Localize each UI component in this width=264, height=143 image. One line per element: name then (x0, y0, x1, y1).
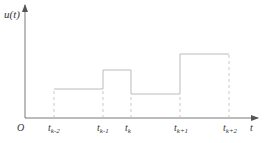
tick-label: tk-2 (48, 122, 60, 135)
zoh-signal-diagram: u(t) O t tk-2tk-1tktk+1tk+2 (0, 0, 264, 143)
tick-label: tk (125, 122, 132, 135)
tick-labels: tk-2tk-1tktk+1tk+2 (48, 122, 238, 135)
origin-label: O (17, 122, 24, 133)
y-axis-label: u(t) (4, 8, 20, 21)
signal-staircase (54, 54, 229, 94)
tick-label: tk-1 (97, 122, 109, 135)
tick-label: tk+1 (174, 122, 188, 135)
dashed-guides (54, 54, 229, 118)
x-axis-label: t (250, 122, 253, 133)
tick-label: tk+2 (223, 122, 238, 135)
